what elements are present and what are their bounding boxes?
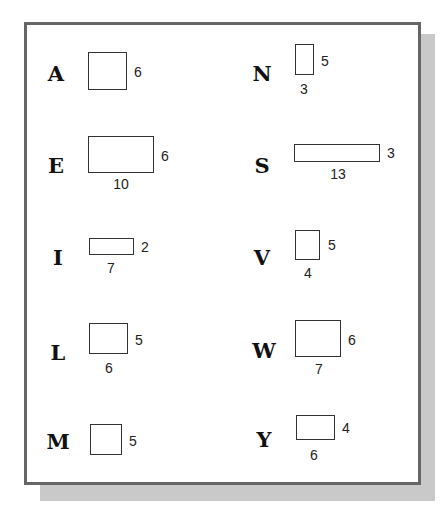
rectangle: [295, 230, 320, 260]
rectangle: [296, 415, 335, 440]
height-label: 6: [134, 65, 142, 79]
rectangle: [88, 136, 154, 173]
width-label: 7: [107, 261, 115, 275]
height-label: 6: [348, 333, 356, 347]
height-label: 2: [141, 240, 149, 254]
height-label: 3: [387, 146, 395, 160]
rectangle: [295, 320, 341, 357]
diagram-frame: [24, 22, 421, 485]
letter-label: I: [53, 247, 63, 268]
width-label: 13: [330, 167, 346, 181]
rectangle: [89, 323, 128, 354]
width-label: 10: [113, 177, 129, 191]
rectangle: [294, 144, 380, 162]
rectangle: [90, 424, 122, 455]
letter-label: L: [51, 342, 66, 363]
rectangle: [295, 44, 314, 75]
width-label: 6: [105, 361, 113, 375]
height-label: 6: [161, 149, 169, 163]
letter-label: W: [252, 340, 276, 361]
width-label: 4: [304, 266, 312, 280]
rectangle: [88, 52, 127, 90]
letter-label: Y: [257, 429, 272, 450]
height-label: 5: [321, 54, 329, 68]
height-label: 4: [342, 421, 350, 435]
letter-label: M: [46, 431, 69, 452]
rectangle: [89, 238, 134, 255]
width-label: 3: [300, 82, 308, 96]
width-label: 6: [310, 448, 318, 462]
height-label: 5: [135, 333, 143, 347]
width-label: 7: [315, 362, 323, 376]
height-label: 5: [129, 434, 137, 448]
letter-label: N: [252, 63, 271, 84]
letter-label: V: [254, 247, 270, 268]
letter-label: S: [254, 155, 269, 176]
letter-label: E: [48, 155, 64, 176]
height-label: 5: [328, 238, 336, 252]
letter-label: A: [48, 63, 64, 84]
